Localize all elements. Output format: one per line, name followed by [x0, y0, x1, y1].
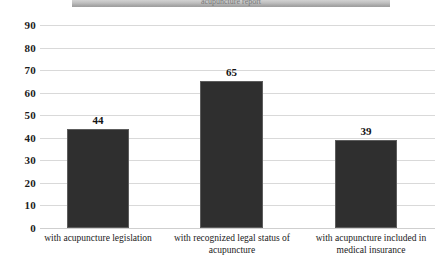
gridline-0	[40, 228, 435, 229]
x-axis-category-label: with acupuncture included inmedical insu…	[302, 233, 440, 256]
top-banner-text: acupuncture report	[72, 0, 390, 6]
x-axis-category-label-line: with acupuncture included in	[302, 233, 440, 245]
bar-value-label: 39	[335, 125, 397, 137]
y-axis-tick-90: 90	[0, 20, 36, 31]
bar-value-label: 65	[200, 66, 263, 78]
bar	[335, 140, 397, 228]
bar-chart: acupuncture report 9080706050403020100 4…	[0, 0, 444, 268]
y-axis-tick-10: 10	[0, 200, 36, 211]
y-axis-tick-40: 40	[0, 133, 36, 144]
bar-value-label: 44	[67, 114, 129, 126]
x-axis-category-label-line: with acupuncture legislation	[31, 233, 165, 245]
y-axis-tick-60: 60	[0, 88, 36, 99]
plot-area: 446539	[40, 25, 435, 228]
y-axis-tick-80: 80	[0, 43, 36, 54]
y-axis-tick-30: 30	[0, 155, 36, 166]
x-axis-category-label-line: acupuncture	[165, 245, 299, 257]
gridline-90	[40, 25, 435, 26]
y-axis-tick-20: 20	[0, 178, 36, 189]
gridline-80	[40, 48, 435, 49]
x-axis-category-label: with recognized legal status ofacupunctu…	[165, 233, 299, 256]
bar	[200, 81, 263, 228]
y-axis-tick-50: 50	[0, 110, 36, 121]
x-axis-category-label: with acupuncture legislation	[31, 233, 165, 245]
x-axis-category-label-line: with recognized legal status of	[165, 233, 299, 245]
bar	[67, 129, 129, 228]
y-axis-tick-70: 70	[0, 65, 36, 76]
top-banner: acupuncture report	[72, 0, 390, 7]
x-axis-category-label-line: medical insurance	[302, 245, 440, 257]
